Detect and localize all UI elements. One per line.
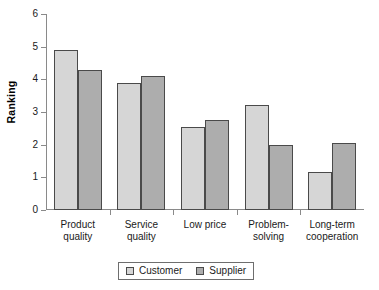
plot-area: 6543210 [46, 14, 364, 210]
x-axis-label-line: Product [46, 219, 110, 231]
bar-groups [46, 14, 364, 210]
x-axis-separator-tick [237, 210, 238, 215]
x-axis-label: Long-termcooperation [300, 219, 364, 242]
y-axis-tick-label: 4 [22, 74, 38, 84]
bar-group [237, 14, 301, 210]
x-axis-category-labels: ProductqualityServicequalityLow pricePro… [46, 219, 364, 242]
x-axis-label-line: Service [110, 219, 174, 231]
x-axis-label-line: cooperation [300, 231, 364, 243]
y-axis-tick-label: 1 [22, 172, 38, 182]
x-axis-label: Problem-solving [237, 219, 301, 242]
x-axis-label: Productquality [46, 219, 110, 242]
legend-item-customer: Customer [126, 266, 182, 276]
y-axis-tick [41, 210, 46, 211]
chart-legend: Customer Supplier [118, 262, 254, 280]
bar-group [300, 14, 364, 210]
bar-group [173, 14, 237, 210]
x-axis-label-line: quality [110, 231, 174, 243]
bar-customer [181, 127, 205, 210]
bar-chart: Ranking 6543210 ProductqualityServicequa… [0, 0, 379, 290]
x-axis-label-line: quality [46, 231, 110, 243]
bar-supplier [332, 143, 356, 210]
y-axis-tick-label: 0 [22, 205, 38, 215]
x-axis-label: Servicequality [110, 219, 174, 242]
x-axis-separator-tick [300, 210, 301, 215]
customer-swatch-icon [126, 267, 134, 275]
bar-customer [245, 105, 269, 210]
x-axis-label: Low price [173, 219, 237, 242]
bar-customer [308, 172, 332, 210]
y-axis-tick-label: 2 [22, 140, 38, 150]
bar-supplier [78, 70, 102, 210]
x-axis-label-line: Low price [173, 219, 237, 231]
bar-group [110, 14, 174, 210]
bar-supplier [205, 120, 229, 210]
y-axis-tick-label: 5 [22, 42, 38, 52]
y-axis-tick-label: 3 [22, 107, 38, 117]
x-axis-label-line: Problem- [237, 219, 301, 231]
bar-supplier [141, 76, 165, 210]
y-axis-tick-label: 6 [22, 9, 38, 19]
legend-label-supplier: Supplier [209, 266, 246, 276]
legend-label-customer: Customer [139, 266, 182, 276]
x-axis-label-line: Long-term [300, 219, 364, 231]
x-axis-separator-tick [110, 210, 111, 215]
legend-item-supplier: Supplier [196, 266, 246, 276]
supplier-swatch-icon [196, 267, 204, 275]
bar-supplier [269, 145, 293, 210]
bar-customer [54, 50, 78, 210]
x-axis-label-line: solving [237, 231, 301, 243]
y-axis-title: Ranking [5, 67, 17, 137]
bar-group [46, 14, 110, 210]
x-axis-separator-tick [173, 210, 174, 215]
bar-customer [117, 83, 141, 210]
